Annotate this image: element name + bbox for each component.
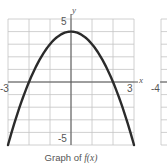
x-tick-label-left: -3 <box>0 83 9 94</box>
chart-canvas: 5 -5 -3 3 x y -4 <box>0 0 167 165</box>
y-tick-label-bottom: -5 <box>58 133 67 144</box>
chart-caption: Graph of f(x) <box>0 152 142 163</box>
caption-prefix: Graph of <box>45 152 85 163</box>
caption-function: f(x) <box>84 153 97 163</box>
x-axis-label: x <box>138 75 143 85</box>
x-tick-label-right: 3 <box>127 83 133 94</box>
neighbor-x-tick-label: -4 <box>151 83 160 94</box>
y-tick-label-top: 5 <box>61 16 67 27</box>
y-axis-label: y <box>71 5 76 15</box>
